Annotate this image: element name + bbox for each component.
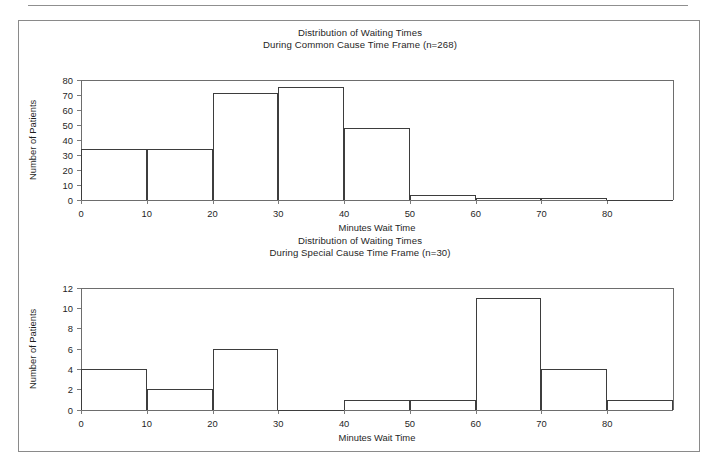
y-tick-label: 2 xyxy=(51,384,73,395)
y-tick-label: 10 xyxy=(51,179,73,190)
y-tick-label: 10 xyxy=(51,303,73,314)
x-tick-label: 80 xyxy=(595,208,619,219)
plot-right-border xyxy=(673,288,674,410)
histogram-bar xyxy=(541,198,607,200)
y-tick-mark xyxy=(77,125,81,126)
x-tick-label: 80 xyxy=(595,418,619,429)
y-axis-label: Number of Patients xyxy=(25,288,39,410)
x-tick-mark xyxy=(147,200,148,204)
x-tick-label: 40 xyxy=(332,418,356,429)
x-tick-label: 50 xyxy=(398,208,422,219)
chart-title: Distribution of Waiting TimesDuring Comm… xyxy=(19,27,701,52)
x-tick-label: 0 xyxy=(69,208,93,219)
x-axis-label: Minutes Wait Time xyxy=(81,222,673,233)
plot-top-border xyxy=(81,288,673,289)
y-tick-label: 6 xyxy=(51,343,73,354)
x-tick-label: 60 xyxy=(464,208,488,219)
x-tick-label: 30 xyxy=(266,208,290,219)
histogram-bar xyxy=(213,349,279,410)
histogram-bar xyxy=(147,389,213,409)
histogram-bar xyxy=(278,410,344,411)
x-tick-label: 10 xyxy=(135,418,159,429)
histogram-bar xyxy=(213,93,279,200)
x-tick-mark xyxy=(81,200,82,204)
histogram-bar xyxy=(344,400,410,410)
x-tick-label: 40 xyxy=(332,208,356,219)
y-tick-mark xyxy=(77,110,81,111)
y-tick-label: 30 xyxy=(51,149,73,160)
y-tick-label: 0 xyxy=(51,404,73,415)
plot-right-border xyxy=(673,80,674,200)
histogram-bar xyxy=(476,298,542,410)
histogram-bar xyxy=(476,198,542,200)
histogram-bar xyxy=(81,369,147,410)
histogram-bar xyxy=(607,200,673,201)
x-tick-label: 70 xyxy=(529,208,553,219)
y-tick-mark xyxy=(77,328,81,329)
y-tick-mark xyxy=(77,288,81,289)
x-tick-mark xyxy=(541,200,542,204)
x-tick-mark xyxy=(541,410,542,414)
chart-title-line1: Distribution of Waiting Times xyxy=(19,235,701,247)
y-axis-label: Number of Patients xyxy=(25,80,39,200)
y-tick-mark xyxy=(77,95,81,96)
histogram-bar xyxy=(410,195,476,200)
histogram-bar xyxy=(147,149,213,200)
y-tick-mark xyxy=(77,308,81,309)
histogram-bar xyxy=(541,369,607,410)
chart-title: Distribution of Waiting TimesDuring Spec… xyxy=(19,235,701,260)
x-tick-mark xyxy=(344,200,345,204)
x-tick-label: 0 xyxy=(69,418,93,429)
y-tick-label: 80 xyxy=(51,74,73,85)
x-tick-label: 30 xyxy=(266,418,290,429)
x-tick-label: 50 xyxy=(398,418,422,429)
chart-common-cause-histogram: Distribution of Waiting TimesDuring Comm… xyxy=(19,27,701,246)
y-tick-label: 20 xyxy=(51,164,73,175)
x-tick-mark xyxy=(476,200,477,204)
y-tick-label: 4 xyxy=(51,364,73,375)
histogram-bar xyxy=(410,400,476,410)
x-axis-line xyxy=(81,200,673,201)
chart-title-line2: During Special Cause Time Frame (n=30) xyxy=(19,247,701,259)
histogram-bar xyxy=(278,87,344,200)
y-tick-mark xyxy=(77,80,81,81)
histogram-bar xyxy=(344,128,410,200)
x-tick-label: 70 xyxy=(529,418,553,429)
page-top-rule xyxy=(28,5,688,6)
x-tick-mark xyxy=(344,410,345,414)
x-tick-label: 60 xyxy=(464,418,488,429)
x-tick-mark xyxy=(476,410,477,414)
y-tick-label: 8 xyxy=(51,323,73,334)
histogram-bar xyxy=(607,400,673,410)
x-axis-line xyxy=(81,410,673,411)
x-tick-mark xyxy=(607,410,608,414)
y-tick-mark xyxy=(77,349,81,350)
x-tick-mark xyxy=(278,200,279,204)
x-tick-mark xyxy=(213,410,214,414)
x-tick-mark xyxy=(410,410,411,414)
x-tick-label: 20 xyxy=(201,208,225,219)
x-tick-mark xyxy=(410,200,411,204)
histogram-bar xyxy=(81,149,147,200)
chart-title-line1: Distribution of Waiting Times xyxy=(19,27,701,39)
chart-title-line2: During Common Cause Time Frame (n=268) xyxy=(19,39,701,51)
plot-area: 0102030405060708001020304050607080Number… xyxy=(19,52,701,246)
y-tick-label: 70 xyxy=(51,89,73,100)
y-tick-label: 50 xyxy=(51,119,73,130)
chart-special-cause-histogram: Distribution of Waiting TimesDuring Spec… xyxy=(19,235,701,456)
y-tick-label: 12 xyxy=(51,282,73,293)
y-tick-label: 60 xyxy=(51,104,73,115)
x-tick-mark xyxy=(81,410,82,414)
plot-area: 02468101201020304050607080Number of Pati… xyxy=(19,260,701,456)
x-tick-mark xyxy=(147,410,148,414)
figure-frame: Distribution of Waiting TimesDuring Comm… xyxy=(18,20,700,452)
y-tick-label: 40 xyxy=(51,134,73,145)
plot-top-border xyxy=(81,80,673,81)
x-tick-label: 10 xyxy=(135,208,159,219)
x-tick-label: 20 xyxy=(201,418,225,429)
x-tick-mark xyxy=(213,200,214,204)
x-axis-label: Minutes Wait Time xyxy=(81,432,673,443)
y-tick-mark xyxy=(77,140,81,141)
y-tick-label: 0 xyxy=(51,194,73,205)
